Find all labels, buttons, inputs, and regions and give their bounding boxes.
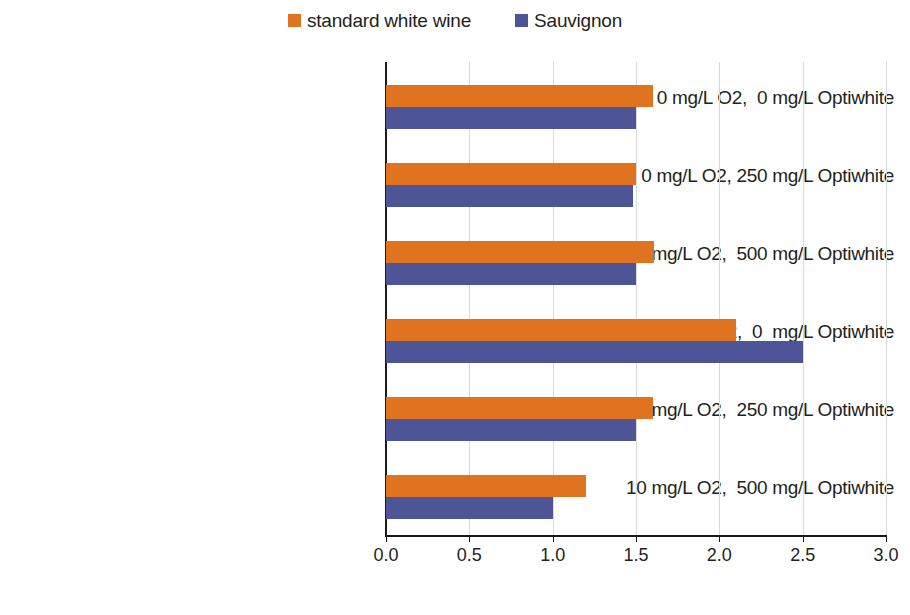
bar-standard-white-wine: [386, 319, 736, 341]
x-axis-tick: [636, 535, 637, 542]
x-axis-tick: [553, 535, 554, 542]
bar-group: [386, 67, 886, 145]
legend-label-standard-white-wine: standard white wine: [307, 11, 471, 30]
bar-group: [386, 145, 886, 223]
legend-item-sauvignon: Sauvignon: [515, 11, 622, 30]
bar-chart: standard white wine Sauvignon 0 mg/L O2,…: [0, 0, 910, 615]
legend-swatch-icon-standard-white-wine: [288, 14, 301, 27]
plot-area: 0.00.51.01.52.02.53.0: [386, 67, 886, 535]
x-axis-tick-label: 3.0: [873, 545, 898, 565]
bar-group: [386, 223, 886, 301]
bar-group: [386, 301, 886, 379]
bar-sauvignon: [386, 497, 553, 519]
bar-standard-white-wine: [386, 163, 636, 185]
bar-standard-white-wine: [386, 397, 653, 419]
x-axis-tick: [886, 535, 887, 542]
bar-sauvignon: [386, 341, 803, 363]
chart-legend: standard white wine Sauvignon: [0, 6, 910, 34]
x-axis-tick-label: 1.0: [540, 545, 565, 565]
legend-label-sauvignon: Sauvignon: [534, 11, 622, 30]
gridline: [886, 62, 887, 535]
x-axis-tick: [386, 535, 387, 542]
legend-swatch-icon-sauvignon: [515, 14, 528, 27]
bar-sauvignon: [386, 107, 636, 129]
bar-sauvignon: [386, 263, 636, 285]
x-axis-tick: [469, 535, 470, 542]
bar-standard-white-wine: [386, 475, 586, 497]
bar-group: [386, 379, 886, 457]
bar-standard-white-wine: [386, 85, 653, 107]
bar-sauvignon: [386, 185, 633, 207]
x-axis-tick-label: 2.5: [790, 545, 815, 565]
x-axis-tick-label: 0.0: [373, 545, 398, 565]
bar-group: [386, 457, 886, 535]
x-axis-tick-label: 0.5: [457, 545, 482, 565]
x-axis-tick: [719, 535, 720, 542]
legend-item-standard-white-wine: standard white wine: [288, 11, 471, 30]
bar-sauvignon: [386, 419, 636, 441]
bar-standard-white-wine: [386, 241, 654, 263]
x-axis-tick-label: 2.0: [707, 545, 732, 565]
x-axis-tick: [803, 535, 804, 542]
x-axis-tick-label: 1.5: [623, 545, 648, 565]
